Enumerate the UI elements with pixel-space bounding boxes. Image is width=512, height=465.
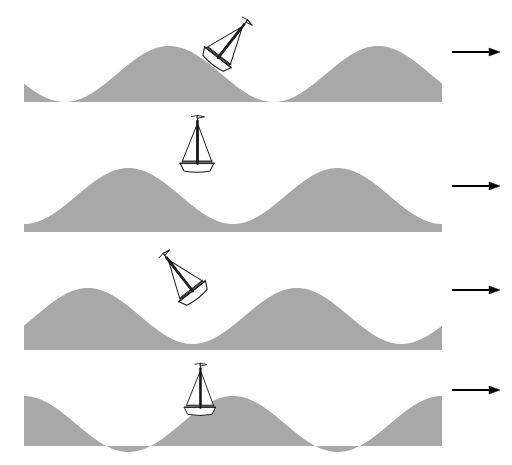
- arrow-head: [489, 48, 500, 56]
- arrow-right-icon: [452, 386, 500, 394]
- wave-water-surface: [24, 168, 442, 232]
- boat-masthead-spar: [158, 253, 163, 258]
- boat-pennant-flag: [200, 363, 206, 366]
- arrow-right-icon: [452, 48, 500, 56]
- panel-wave-phase-3: [24, 243, 500, 350]
- panel-wave-phase-4: [24, 363, 500, 452]
- panel-wave-phase-2: [24, 116, 500, 233]
- wave-sequence-figure: [0, 0, 512, 465]
- wave-water-surface: [24, 288, 442, 350]
- boat-masthead-spar: [195, 363, 201, 364]
- sailboat-icon: [184, 363, 215, 415]
- figure-canvas: [0, 0, 512, 465]
- boat-masthead-spar: [192, 116, 198, 117]
- arrow-head: [489, 182, 500, 190]
- arrow-head: [489, 386, 500, 394]
- arrow-head: [489, 286, 500, 294]
- boat-mainsail: [201, 373, 213, 406]
- panel-wave-phase-1: [24, 9, 500, 102]
- boat-jib-sail: [187, 373, 200, 406]
- boat-pennant-flag: [198, 116, 205, 119]
- boat-pennant-flag: [246, 20, 253, 27]
- sailboat-icon: [149, 243, 211, 309]
- boat-masthead-spar: [242, 16, 247, 21]
- boat-jib-sail: [183, 126, 197, 162]
- wave-water-surface: [24, 396, 442, 452]
- boat-pennant-flag: [163, 249, 170, 256]
- arrow-right-icon: [452, 286, 500, 294]
- sailboat-icon: [180, 116, 214, 173]
- boat-mainsail: [198, 126, 211, 162]
- arrow-right-icon: [452, 182, 500, 190]
